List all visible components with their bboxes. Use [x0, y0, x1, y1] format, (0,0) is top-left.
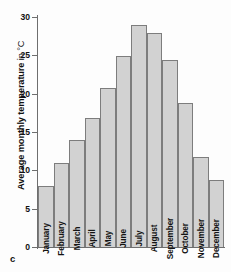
y-axis-tick-label: 25 — [0, 50, 30, 60]
y-axis-tick-label: 30 — [0, 12, 30, 22]
bar-category-label-text: June — [119, 229, 128, 248]
y-axis-tick-labels: 051015202530 — [0, 0, 30, 272]
bar-category-label-text: July — [134, 231, 143, 247]
y-axis-tick-label: 5 — [0, 204, 30, 214]
bar-category-label-text: February — [57, 221, 66, 255]
bar-category-label: June — [119, 229, 128, 248]
y-axis-tick-label: 15 — [0, 127, 30, 137]
bar-category-label: November — [196, 219, 205, 258]
bar-category-label: August — [150, 225, 159, 253]
bar: September — [162, 60, 178, 247]
bar-category-label: March — [72, 227, 81, 251]
bar-category-label-text: December — [212, 219, 221, 258]
bar-category-label-text: October — [181, 223, 190, 254]
bar-category-label: October — [181, 223, 190, 254]
bar: August — [147, 33, 163, 247]
bar: July — [131, 25, 147, 247]
bar-category-label-text: March — [72, 227, 81, 251]
bar-category-label-text: May — [103, 231, 112, 247]
bar-series: JanuaryFebruaryMarchAprilMayJuneJulyAugu… — [38, 17, 224, 247]
bar-category-label: January — [41, 223, 50, 254]
bar-chart-figure: Average monthly temperature in °C 051015… — [0, 0, 231, 272]
bar-category-label-text: August — [150, 225, 159, 253]
y-axis-tick-label: 0 — [0, 242, 30, 252]
bar: November — [193, 157, 209, 247]
bar-category-label-text: September — [165, 218, 174, 259]
bar: April — [85, 118, 101, 247]
bar-category-label: July — [134, 231, 143, 247]
y-axis-tick — [32, 247, 38, 248]
bar: March — [69, 140, 85, 247]
bar-category-label-text: November — [196, 219, 205, 258]
bar-category-label: December — [212, 219, 221, 258]
bar-category-label: September — [165, 218, 174, 259]
y-axis-tick-label: 10 — [0, 165, 30, 175]
bar: January — [38, 186, 54, 247]
figure-caption-letter: c — [10, 253, 15, 264]
bar: June — [116, 56, 132, 247]
bar-category-label: April — [88, 229, 97, 247]
y-axis-tick-label: 20 — [0, 89, 30, 99]
bar-category-label: May — [103, 231, 112, 247]
bar: October — [178, 103, 194, 247]
bar: February — [54, 163, 70, 247]
bar-category-label-text: April — [88, 229, 97, 247]
bar-category-label-text: January — [41, 223, 50, 254]
bar: May — [100, 88, 116, 247]
bar-category-label: February — [57, 221, 66, 255]
bar: December — [209, 180, 225, 247]
